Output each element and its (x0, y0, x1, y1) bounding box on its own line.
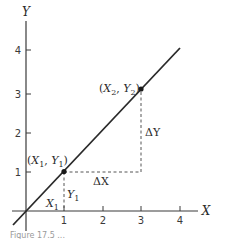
x-ticks (64, 206, 180, 211)
dashed-guides (64, 89, 141, 211)
y-tick-label-3: 3 (15, 89, 21, 100)
x1-label: X1 (45, 197, 59, 212)
x-tick-label-1: 1 (61, 215, 67, 226)
point-1-marker (61, 169, 66, 174)
y-axis-label: Y (22, 5, 31, 19)
x-axis-label: X (201, 204, 211, 218)
y-tick-label-4: 4 (15, 45, 21, 56)
point-2-label: (X2, Y2) (99, 82, 140, 97)
slope-diagram: 1 2 3 4 1 2 3 4 Y X (X1, Y1) (0, 0, 226, 239)
diagram-canvas: 1 2 3 4 1 2 3 4 Y X (X1, Y1) (0, 0, 226, 239)
point-1-label: (X1, Y1) (27, 154, 68, 169)
x-tick-label-4: 4 (177, 215, 183, 226)
y-tick-label-2: 2 (15, 128, 21, 139)
delta-x-label: ΔX (93, 175, 109, 188)
delta-y-label: ΔY (145, 126, 161, 139)
y-tick-label-1: 1 (15, 167, 21, 178)
x-tick-label-2: 2 (100, 215, 106, 226)
x-tick-label-3: 3 (138, 215, 144, 226)
y1-label: Y1 (67, 188, 79, 203)
figure-caption: Figure 17.5 ... (10, 231, 65, 239)
